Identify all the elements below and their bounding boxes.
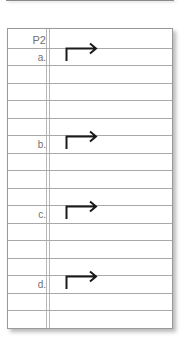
ruled-line [8, 83, 172, 84]
page-label: P2 [16, 34, 46, 46]
ruled-line [8, 223, 172, 224]
ruled-line [8, 240, 172, 241]
right-angle-arrow-icon [65, 130, 99, 150]
ruled-line [8, 293, 172, 294]
margin-line-right [49, 29, 50, 328]
right-angle-arrow-icon [65, 270, 99, 290]
ruled-line [8, 65, 172, 66]
row-label-d: d. [16, 279, 46, 290]
right-angle-arrow-icon [65, 42, 99, 62]
ruled-line [8, 118, 172, 119]
ruled-line [8, 258, 172, 259]
ruled-line [8, 310, 172, 311]
margin-line-left [46, 29, 47, 328]
ruled-line [8, 170, 172, 171]
row-label-c: c. [16, 209, 46, 220]
worksheet-card: P2 a. b. c. d. [7, 28, 173, 329]
row-label-b: b. [16, 139, 46, 150]
previous-card-edge [6, 0, 174, 1]
ruled-line [8, 188, 172, 189]
ruled-line [8, 100, 172, 101]
right-angle-arrow-icon [65, 200, 99, 220]
row-label-a: a. [16, 52, 46, 63]
ruled-line [8, 153, 172, 154]
